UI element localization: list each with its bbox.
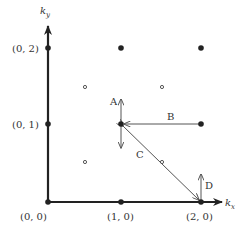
tick-label-origin: (0, 0) — [20, 212, 47, 222]
label-d: D — [205, 181, 213, 191]
k-space-diagram — [0, 0, 244, 231]
label-b: B — [167, 112, 174, 122]
tick-label-0-2: (0, 2) — [12, 44, 39, 54]
tick-label-1-0: (1, 0) — [107, 212, 134, 222]
x-axis-label: kx — [225, 198, 235, 211]
label-c: C — [136, 150, 144, 160]
y-axis-label: ky — [40, 6, 50, 19]
label-a: A — [110, 97, 117, 107]
tick-label-2-0: (2, 0) — [186, 212, 213, 222]
tick-label-0-1: (0, 1) — [12, 120, 39, 130]
